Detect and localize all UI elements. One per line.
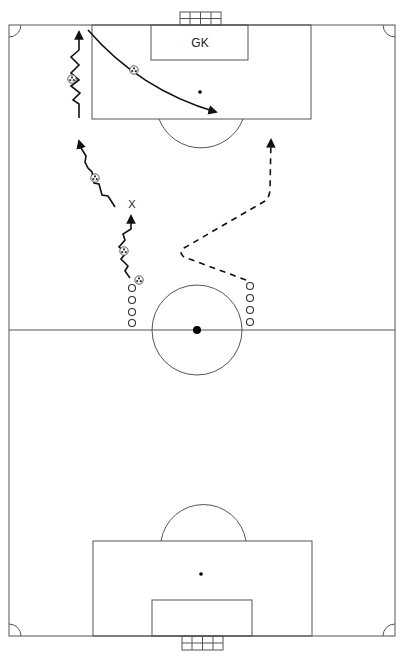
corner-arc-bottom-right [383, 624, 395, 636]
run-path-dashed [181, 140, 271, 280]
top-penalty-arc [159, 119, 243, 148]
bottom-penalty-spot [199, 572, 203, 576]
ball-icon-dribble-1 [120, 247, 128, 255]
bottom-goal-net [182, 636, 223, 650]
ball-icon-dribble-2 [91, 174, 99, 182]
top-penalty-spot [198, 90, 202, 94]
corner-arc-top-right [383, 25, 395, 37]
goalkeeper-label: GK [191, 36, 208, 50]
bottom-penalty-arc [161, 505, 246, 541]
soccer-pitch-diagram: GK X [0, 0, 408, 659]
bottom-penalty-area [93, 541, 312, 636]
ball-icon-queue [135, 276, 143, 284]
left-player-queue [129, 285, 136, 327]
ball-icon-pass [130, 66, 138, 74]
corner-arc-bottom-left [9, 624, 21, 636]
center-spot [193, 326, 201, 334]
top-goal-net [180, 12, 221, 25]
ball-icon-dribble-3 [68, 75, 76, 83]
bottom-goal-area [152, 600, 252, 636]
defender-marker-x: X [128, 198, 136, 210]
right-player-queue [247, 283, 254, 326]
corner-arc-top-left [9, 25, 21, 37]
